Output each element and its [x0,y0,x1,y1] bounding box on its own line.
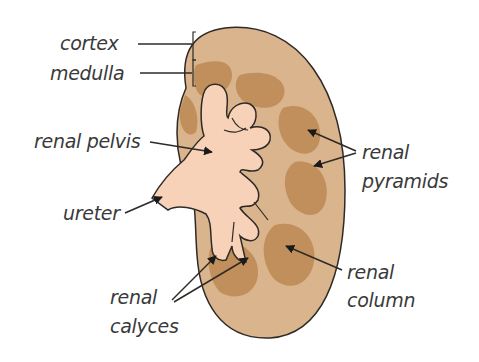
label-renal-calyces-line1: renal [110,286,157,308]
label-medulla: medulla [50,62,124,84]
label-renal-pelvis: renal pelvis [34,130,140,152]
label-renal-column-line2: column [347,289,415,311]
label-cortex: cortex [60,32,118,54]
label-renal-pyramids-line2: pyramids [362,170,448,192]
kidney-diagram: cortex medulla renal pelvis ureter renal… [0,0,479,362]
label-renal-column-line1: renal [347,261,394,283]
ureter-arrow [125,197,162,213]
label-renal-pyramids-line1: renal [362,141,409,163]
label-renal-calyces-line2: calyces [110,315,179,337]
label-ureter: ureter [63,202,120,224]
